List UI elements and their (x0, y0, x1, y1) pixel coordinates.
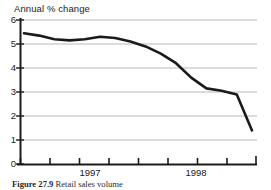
figure-caption-text: Retail sales volume (56, 179, 123, 189)
figure-caption-number: Figure 27.9 (12, 179, 53, 189)
chart-plot-area (0, 0, 271, 190)
figure-container: Annual % change 6 5 4 3 2 1 0 1997 1998 (0, 0, 271, 190)
grid-lines (22, 20, 257, 140)
figure-caption: Figure 27.9 Retail sales volume (12, 179, 123, 190)
x-axis-ticks (21, 156, 257, 164)
